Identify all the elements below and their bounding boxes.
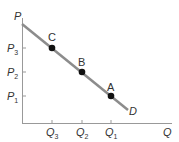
label-c: C bbox=[48, 31, 56, 43]
p1-label: P1 bbox=[7, 90, 18, 104]
label-b: B bbox=[78, 56, 85, 68]
label-a: A bbox=[107, 81, 115, 93]
point-b bbox=[79, 69, 86, 76]
p2-label: P2 bbox=[7, 66, 18, 80]
demand-chart: C B A D P Q P3 P2 P1 Q3 Q2 Q1 bbox=[0, 0, 179, 142]
p3-label: P3 bbox=[7, 42, 18, 56]
q2-label: Q2 bbox=[76, 126, 89, 140]
x-axis-title: Q bbox=[163, 126, 172, 138]
label-d: D bbox=[129, 105, 137, 117]
point-a bbox=[108, 93, 115, 100]
y-axis-title: P bbox=[14, 10, 22, 22]
q3-label: Q3 bbox=[46, 126, 59, 140]
point-c bbox=[49, 45, 56, 52]
q1-label: Q1 bbox=[105, 126, 118, 140]
